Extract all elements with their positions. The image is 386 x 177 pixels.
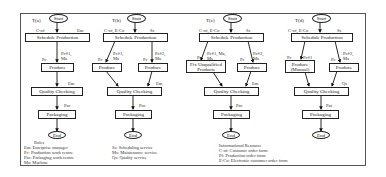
panel-b-packaging: Packaging <box>115 110 152 119</box>
panel-d-produce2-label-left: Pc <box>331 57 336 62</box>
panel-c-produce2-label-left: Pc <box>240 57 245 62</box>
panel-b-quality-label: Em <box>156 81 162 86</box>
panel-d-packaging: Packaging <box>302 110 339 119</box>
panel-b-produce2-label-right: Pc#2, Ma <box>155 51 169 61</box>
panel-b-produce-1: Produce <box>92 63 122 72</box>
panel-d-schedule-production: Schedule Production <box>291 33 353 42</box>
panel-c-packaging-label: Pac <box>236 103 243 108</box>
panel-d-produce: Produce <box>329 63 359 72</box>
panel-d-quality-label: Qs <box>342 81 347 86</box>
panel-c-title: T(c) <box>206 18 215 23</box>
resource-item: E-Co: Electronic customer order form <box>219 158 287 163</box>
panel-c-quality-label: Em <box>252 81 258 86</box>
panel-d-title: T(d) <box>295 18 304 23</box>
panel-b-start-node: Start <box>127 14 146 23</box>
panel-a-title: T(a) <box>32 18 41 23</box>
roles-legend-right: Ss: Scheduling service Ms: Maintenance s… <box>112 145 157 160</box>
resources-legend: Informational Resource C-of: Customer or… <box>219 143 287 163</box>
panel-b-quality-checking: Quality Checking <box>107 87 162 96</box>
panel-d-start-node: Start <box>312 14 331 23</box>
panel-d-produce2-label-right: Pc#2, Ma <box>343 51 357 61</box>
panel-c-end-node: End <box>222 131 240 139</box>
panel-b-end-node: End <box>124 131 142 139</box>
panel-c-schedule-production: Schedule Production <box>199 33 264 42</box>
roles-legend: Roles Em: Enterprise manager Pc: Product… <box>24 140 74 165</box>
panel-a-produce-label-left: Pc <box>42 57 47 62</box>
role-item: Ma: Machine <box>24 160 74 165</box>
panel-d-produce-manual: Produce (Manual) <box>285 60 315 73</box>
panel-c-start-node: Start <box>223 14 242 23</box>
panel-a-quality-label: Em <box>68 81 74 86</box>
panel-b-produce1-label-right: Pc#1, Ma <box>113 51 127 61</box>
panel-b-produce-2: Produce <box>138 63 168 72</box>
panel-c-quality-checking: Quality Checking <box>204 87 259 96</box>
panel-a-start-node: Start <box>49 14 68 23</box>
panel-a-quality-checking: Quality Checking <box>31 87 83 96</box>
panel-b-packaging-label: Pac <box>139 103 146 108</box>
panel-c-fix-unqualified-products: Fix Unqualified Products <box>186 60 226 73</box>
panel-b-produce2-label-left: Pc <box>143 57 148 62</box>
panel-c-produce: Produce <box>237 63 267 72</box>
role-item: Qs: Quality service <box>112 155 157 160</box>
panel-d-quality-checking: Quality Checking <box>294 87 349 96</box>
panel-b-produce1-label-left: Pc <box>98 57 103 62</box>
panel-a-schedule-production: Schedule Production <box>25 33 90 42</box>
panel-a-end-node: End <box>48 131 66 139</box>
panel-c-produce2-label-right: Pc#2, Ma <box>253 51 267 61</box>
panel-a-produce-label-right: Pc#1, Ma <box>61 51 75 61</box>
panel-d-end-node: End <box>312 131 330 139</box>
panel-a-produce: Produce <box>41 63 74 72</box>
panel-a-packaging: Packaging <box>38 110 76 119</box>
panel-c-packaging: Packaging <box>213 110 250 119</box>
panel-a-packaging-label: Pac <box>64 103 71 108</box>
panel-d-packaging-label: Pac <box>326 103 333 108</box>
panel-b-title: T(b) <box>112 18 121 23</box>
panel-b-schedule-production: Schedule Production <box>103 33 168 42</box>
